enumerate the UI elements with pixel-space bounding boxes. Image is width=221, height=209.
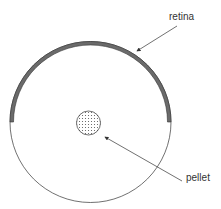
pellet-circle bbox=[77, 111, 101, 135]
retina-arrow bbox=[137, 26, 177, 51]
pellet-arrow bbox=[105, 137, 182, 181]
eye-diagram: retina pellet bbox=[0, 0, 221, 209]
retina-label: retina bbox=[169, 11, 194, 22]
retina-band bbox=[10, 42, 171, 123]
pellet-label: pellet bbox=[186, 172, 210, 183]
